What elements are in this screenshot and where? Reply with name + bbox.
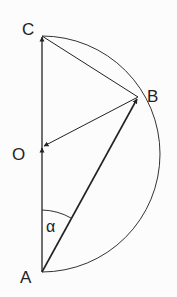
label-B: B [147,87,158,106]
chord-C-B [42,36,138,97]
label-O: O [12,145,25,164]
vector-A-B [42,99,137,272]
geometry-figure: C B O A α [0,0,177,297]
label-C: C [22,20,34,39]
angle-alpha-arc [42,210,71,218]
semicircle-arc [42,36,160,272]
label-alpha: α [46,218,55,235]
label-A: A [20,268,32,287]
diagram: C B O A α [0,0,177,297]
